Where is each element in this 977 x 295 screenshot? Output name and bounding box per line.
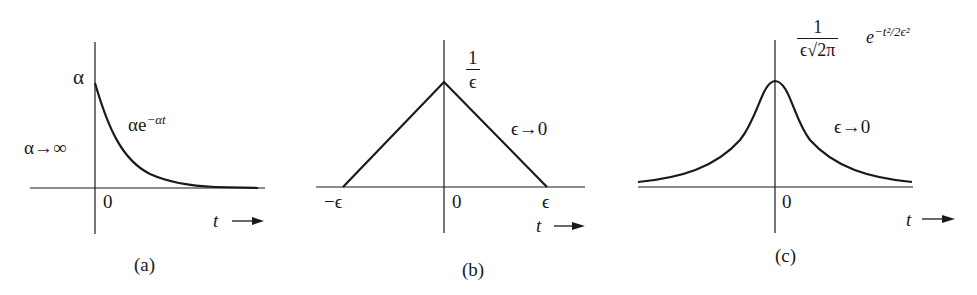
panel-c-limit-label: ϵ→0 <box>834 117 870 136</box>
panel-a-function-base: αe <box>128 114 146 135</box>
panel-c-origin-label: 0 <box>782 192 792 211</box>
panel-b-t-arrowhead <box>572 222 585 230</box>
panel-c-t-arrowhead <box>942 215 955 223</box>
panel-b-pos-epsilon-label: ϵ <box>542 192 550 211</box>
panel-c-exp-base: e <box>866 27 874 47</box>
panel-b-peak-label: 1 ϵ <box>465 48 481 91</box>
panel-a-function-exponent: −αt <box>146 112 165 127</box>
panel-b-peak-denominator: ϵ <box>466 69 480 91</box>
panel-a-function-label: αe−αt <box>128 115 166 134</box>
panel-c-graphics <box>638 40 955 233</box>
panel-c-coefficient-numerator: 1 <box>810 18 825 38</box>
panel-b-t-label: t <box>536 216 541 235</box>
panel-a-caption: (a) <box>134 255 155 274</box>
panel-c-exponential-label: e−t²/2ϵ² <box>866 28 910 46</box>
panel-b-neg-epsilon-label: −ϵ <box>324 192 342 211</box>
panel-c-coefficient-label: 1 ϵ√2π <box>797 18 838 59</box>
panel-c-coefficient-denominator: ϵ√2π <box>797 38 838 59</box>
panel-a-origin-label: 0 <box>103 192 113 211</box>
panel-a-limit-label: α→∞ <box>24 138 67 157</box>
panel-c-exp-power: −t²/2ϵ² <box>874 24 910 39</box>
panel-a-exponential-curve <box>95 83 258 188</box>
panel-b-peak-numerator: 1 <box>465 48 481 69</box>
panel-c-caption: (c) <box>775 246 796 265</box>
panel-b-caption: (b) <box>462 260 484 279</box>
panel-b-limit-label: ϵ→0 <box>511 119 547 138</box>
panel-b-origin-label: 0 <box>452 192 462 211</box>
panel-a-t-label: t <box>213 211 218 230</box>
panel-a-t-arrowhead <box>252 217 264 225</box>
panel-a-alpha-label: α <box>73 67 84 88</box>
panel-c-t-label: t <box>906 210 911 229</box>
